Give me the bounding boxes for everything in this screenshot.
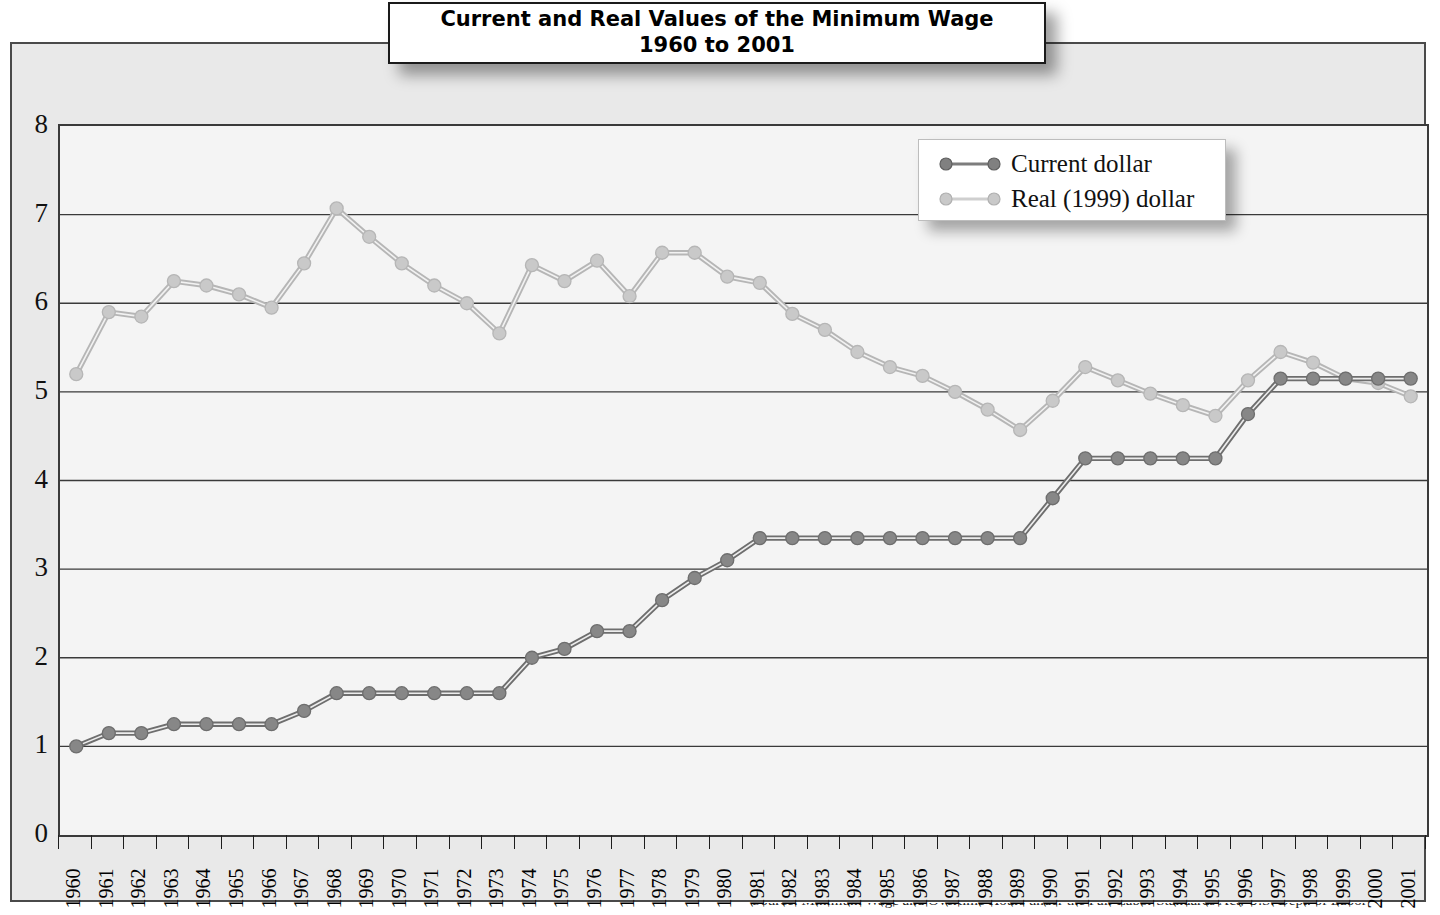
data-point-marker <box>428 687 441 700</box>
x-axis-tick-label-text: 1971 <box>425 869 441 909</box>
x-axis-tick-label-text: 1982 <box>783 869 799 909</box>
data-point-marker <box>525 259 538 272</box>
data-point-marker <box>916 532 929 545</box>
x-axis-tick-label-text: 1972 <box>457 869 473 909</box>
data-point-marker <box>786 307 799 320</box>
data-point-marker <box>883 532 896 545</box>
x-axis-tick <box>644 835 645 849</box>
data-point-marker <box>135 727 148 740</box>
data-point-marker <box>623 625 636 638</box>
x-axis-tick <box>221 835 222 849</box>
x-axis-tick-label-text: 1993 <box>1141 869 1157 909</box>
x-axis-tick-label-text: 1986 <box>913 869 929 909</box>
x-axis-tick-label-text: 1994 <box>1173 869 1189 909</box>
data-point-marker <box>949 532 962 545</box>
data-point-marker <box>330 687 343 700</box>
x-axis-tick-label-text: 1988 <box>978 869 994 909</box>
x-axis-tick <box>481 835 482 849</box>
data-point-marker <box>656 246 669 259</box>
x-axis-tick <box>123 835 124 849</box>
data-point-marker <box>298 257 311 270</box>
x-axis-tick-label-text: 1965 <box>229 869 245 909</box>
y-axis-tick-label: 2 <box>14 642 48 669</box>
x-axis-tick <box>904 835 905 849</box>
data-point-marker <box>916 369 929 382</box>
x-axis-tick <box>1295 835 1296 849</box>
legend-symbol-real-dollar <box>935 190 1007 208</box>
y-axis-tick-label: 7 <box>14 199 48 226</box>
data-point-marker <box>1144 387 1157 400</box>
data-point-marker <box>1079 452 1092 465</box>
x-axis-tick-label-text: 1975 <box>555 869 571 909</box>
data-point-marker <box>981 532 994 545</box>
data-point-marker <box>395 687 408 700</box>
x-axis-tick-label-text: 1970 <box>392 869 408 909</box>
x-axis-tick-label-text: 1979 <box>685 869 701 909</box>
data-point-marker <box>70 368 83 381</box>
data-point-marker <box>1241 408 1254 421</box>
data-point-marker <box>786 532 799 545</box>
x-axis-tick <box>1002 835 1003 849</box>
x-axis-tick-label-text: 1999 <box>1336 869 1352 909</box>
x-axis-tick <box>58 835 59 849</box>
x-axis-tick <box>156 835 157 849</box>
data-point-marker <box>688 246 701 259</box>
data-point-marker <box>558 275 571 288</box>
x-axis-tick-label-text: 1966 <box>262 869 278 909</box>
x-axis-tick-label-text: 1996 <box>1238 869 1254 909</box>
data-point-marker <box>298 704 311 717</box>
x-axis-tick-label-text: 1963 <box>164 869 180 909</box>
x-axis-tick <box>91 835 92 849</box>
data-point-marker <box>591 254 604 267</box>
x-axis-tick <box>937 835 938 849</box>
data-point-marker <box>135 310 148 323</box>
data-point-marker <box>493 327 506 340</box>
series-line-outline <box>76 208 1410 430</box>
x-axis-tick-label-text: 1997 <box>1271 869 1287 909</box>
data-point-marker <box>623 290 636 303</box>
data-point-marker <box>753 276 766 289</box>
data-point-marker <box>1339 372 1352 385</box>
data-point-marker <box>428 279 441 292</box>
data-point-marker <box>1241 374 1254 387</box>
data-point-marker <box>363 230 376 243</box>
x-axis-tick-label-text: 1968 <box>327 869 343 909</box>
y-axis-tick-label: 4 <box>14 465 48 492</box>
x-axis-tick <box>286 835 287 849</box>
series-real-dollar <box>70 202 1417 437</box>
data-point-marker <box>1307 372 1320 385</box>
chart-svg <box>60 126 1427 835</box>
x-axis-tick <box>579 835 580 849</box>
data-point-marker <box>1111 452 1124 465</box>
x-axis-tick <box>1067 835 1068 849</box>
data-point-marker <box>558 642 571 655</box>
data-point-marker <box>200 279 213 292</box>
x-axis-tick <box>1230 835 1231 849</box>
x-axis-tick-label-text: 1969 <box>360 869 376 909</box>
data-point-marker <box>688 571 701 584</box>
data-point-marker <box>1014 532 1027 545</box>
data-point-marker <box>233 288 246 301</box>
legend-item-real-dollar: Real (1999) dollar <box>935 181 1225 216</box>
data-point-marker <box>818 532 831 545</box>
data-point-marker <box>1404 390 1417 403</box>
x-axis-tick-label-text: 1967 <box>295 869 311 909</box>
x-axis-tick <box>1262 835 1263 849</box>
chart-title-box: Current and Real Values of the Minimum W… <box>388 2 1046 64</box>
data-point-marker <box>102 727 115 740</box>
data-point-marker <box>102 306 115 319</box>
x-axis-tick <box>611 835 612 849</box>
data-point-marker <box>1176 452 1189 465</box>
y-axis-tick-label: 5 <box>14 376 48 403</box>
data-point-marker <box>1274 345 1287 358</box>
data-point-marker <box>493 687 506 700</box>
x-axis-tick <box>1100 835 1101 849</box>
x-axis-tick-label-text: 1980 <box>718 869 734 909</box>
x-axis-tick-label-text: 1976 <box>587 869 603 909</box>
legend-label-current-dollar: Current dollar <box>1011 150 1152 178</box>
x-axis-tick <box>969 835 970 849</box>
data-point-marker <box>818 323 831 336</box>
x-axis-tick <box>1392 835 1393 849</box>
plot-area <box>58 124 1429 837</box>
series-line <box>76 379 1410 747</box>
